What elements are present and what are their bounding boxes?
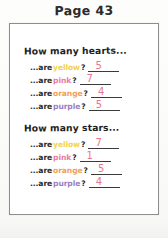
row-prefix: ...are xyxy=(30,179,52,188)
worksheet-box: How many hearts... ...are yellow ? 5 ...… xyxy=(9,23,159,215)
answer-value: 5 xyxy=(96,100,102,110)
row-prefix: ...are xyxy=(30,63,52,72)
answer-value: 7 xyxy=(87,74,93,84)
question-mark: ? xyxy=(81,63,85,72)
answer-slot[interactable]: 4 xyxy=(91,86,122,98)
color-word-orange: orange xyxy=(52,89,83,98)
row-prefix: ...are xyxy=(30,89,52,98)
answer-row: ...are purple ? 4 xyxy=(30,176,158,188)
question-block-stars: How many stars... ...are yellow ? 7 ...a… xyxy=(10,122,158,189)
answer-slot[interactable]: 7 xyxy=(88,137,119,149)
answer-slot[interactable]: 1 xyxy=(80,150,111,162)
answer-row: ...are purple ? 5 xyxy=(30,99,158,111)
color-word-purple: purple xyxy=(52,102,81,111)
answer-row: ...are orange ? 5 xyxy=(30,163,158,175)
answer-slot[interactable]: 5 xyxy=(89,99,120,111)
row-prefix: ...are xyxy=(30,166,52,175)
answer-value: 5 xyxy=(95,61,101,71)
answer-slot[interactable]: 4 xyxy=(89,176,120,188)
question-mark: ? xyxy=(81,102,85,111)
color-word-yellow: yellow xyxy=(52,63,81,72)
question-block-hearts: How many hearts... ...are yellow ? 5 ...… xyxy=(10,45,158,112)
answer-slot[interactable]: 5 xyxy=(91,163,122,175)
color-word-pink: pink xyxy=(52,76,72,85)
row-prefix: ...are xyxy=(30,140,52,149)
question-mark: ? xyxy=(81,140,85,149)
question-mark: ? xyxy=(84,166,88,175)
color-word-pink: pink xyxy=(52,153,72,162)
answer-row: ...are pink ? 1 xyxy=(30,150,158,162)
answer-value: 5 xyxy=(98,164,104,174)
question-mark: ? xyxy=(84,89,88,98)
row-prefix: ...are xyxy=(30,102,52,111)
row-prefix: ...are xyxy=(30,76,52,85)
worksheet-page: Page 43 How many hearts... ...are yellow… xyxy=(0,0,168,238)
answer-row: ...are yellow ? 7 xyxy=(30,137,158,149)
answer-row: ...are orange ? 4 xyxy=(30,86,158,98)
question-mark: ? xyxy=(81,179,85,188)
answer-value: 1 xyxy=(87,151,93,161)
question-mark: ? xyxy=(72,153,76,162)
answer-slot[interactable]: 7 xyxy=(80,73,111,85)
answer-row: ...are yellow ? 5 xyxy=(30,60,158,72)
scan-edge-shading xyxy=(0,222,168,238)
page-title: Page 43 xyxy=(0,2,168,18)
row-prefix: ...are xyxy=(30,153,52,162)
answer-row: ...are pink ? 7 xyxy=(30,73,158,85)
answer-value: 7 xyxy=(95,138,101,148)
color-word-orange: orange xyxy=(52,166,83,175)
question-heading-hearts: How many hearts... xyxy=(24,44,158,56)
color-word-yellow: yellow xyxy=(52,140,81,149)
question-mark: ? xyxy=(72,76,76,85)
answer-value: 4 xyxy=(96,177,102,187)
question-heading-stars: How many stars... xyxy=(24,121,158,133)
answer-value: 4 xyxy=(98,87,104,97)
color-word-purple: purple xyxy=(52,179,81,188)
answer-slot[interactable]: 5 xyxy=(88,60,119,72)
